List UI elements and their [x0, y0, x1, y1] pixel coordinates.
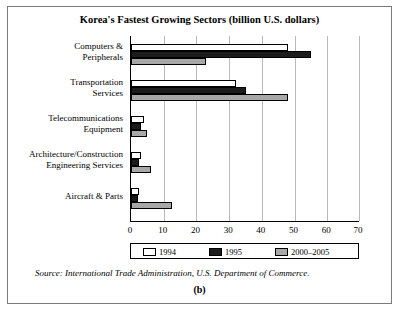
x-tick-60: 60: [316, 225, 336, 235]
bar-computers-1995: [131, 51, 311, 58]
x-tick-30: 30: [218, 225, 238, 235]
plot-area: [130, 36, 359, 222]
category-label-line: Computers &: [5, 41, 123, 52]
legend-label-1995: 1995: [225, 247, 242, 257]
bar-aircraft-1994: [131, 188, 139, 195]
x-tick-40: 40: [251, 225, 271, 235]
x-axis-tick-labels: 0 10 20 30 40 50 60 70: [130, 225, 359, 239]
bar-telecom-1995: [131, 123, 141, 130]
legend-label-1994: 1994: [159, 247, 176, 257]
category-label-line: Transportation: [5, 77, 123, 88]
legend-swatch-1995: [209, 248, 222, 256]
bar-computers-1994: [131, 44, 288, 51]
category-label-line: Architecture/Construction: [5, 149, 123, 160]
x-tick-20: 20: [185, 225, 205, 235]
gridline-70: [359, 36, 360, 221]
bar-computers-2000-2005: [131, 58, 206, 65]
legend-label-2000-2005: 2000–2005: [291, 247, 329, 257]
legend-swatch-2000-2005: [275, 248, 288, 256]
category-label-line: Peripherals: [5, 52, 123, 63]
category-label-aircraft-parts: Aircraft & Parts: [5, 191, 123, 202]
category-label-telecommunications-equipment: Telecommunications Equipment: [5, 113, 123, 135]
chart-title: Korea's Fastest Growing Sectors (billion…: [8, 14, 391, 25]
bar-architecture-2000-2005: [131, 166, 151, 173]
legend-item-1995: 1995: [209, 247, 242, 257]
chart-legend: 1994 1995 2000–2005: [130, 243, 359, 259]
chart-panel: Korea's Fastest Growing Sectors (billion…: [7, 6, 392, 304]
gridline-50: [295, 36, 296, 221]
gridline-40: [262, 36, 263, 221]
category-label-line: Aircraft & Parts: [5, 191, 123, 202]
x-tick-0: 0: [120, 225, 140, 235]
category-label-transportation-services: Transportation Services: [5, 77, 123, 99]
bar-transportation-1994: [131, 80, 236, 87]
x-tick-10: 10: [153, 225, 173, 235]
category-label-line: Engineering Services: [5, 160, 123, 171]
x-tick-70: 70: [348, 225, 368, 235]
source-note: Source: International Trade Administrati…: [35, 268, 309, 278]
bar-aircraft-1995: [131, 195, 138, 202]
gridline-60: [327, 36, 328, 221]
category-label-line: Equipment: [5, 124, 123, 135]
bar-architecture-1994: [131, 152, 141, 159]
bar-transportation-2000-2005: [131, 94, 288, 101]
bar-aircraft-2000-2005: [131, 202, 172, 209]
legend-item-1994: 1994: [143, 247, 176, 257]
bar-telecom-2000-2005: [131, 130, 147, 137]
bar-telecom-1994: [131, 116, 144, 123]
legend-item-2000-2005: 2000–2005: [275, 247, 329, 257]
bar-architecture-1995: [131, 159, 139, 166]
legend-swatch-1994: [143, 248, 156, 256]
bar-transportation-1995: [131, 87, 246, 94]
panel-label: (b): [8, 284, 391, 295]
category-label-line: Telecommunications: [5, 113, 123, 124]
x-tick-50: 50: [284, 225, 304, 235]
category-label-line: Services: [5, 88, 123, 99]
category-label-computers-peripherals: Computers & Peripherals: [5, 41, 123, 63]
category-label-architecture-construction: Architecture/Construction Engineering Se…: [5, 149, 123, 171]
gridline-30: [229, 36, 230, 221]
